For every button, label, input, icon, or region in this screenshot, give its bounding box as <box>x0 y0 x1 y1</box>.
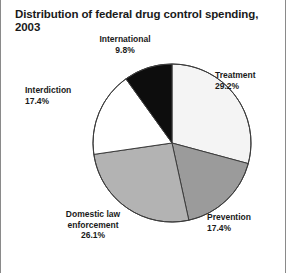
slice-label-interdiction-value: 17.4% <box>25 96 99 107</box>
slice-label-treatment-value: 29.2% <box>215 81 281 92</box>
slice-label-domestic-name-line2: enforcement <box>67 220 118 230</box>
slice-label-prevention-value: 17.4% <box>207 223 277 234</box>
slice-label-domestic-name-line1: Domestic law <box>66 209 120 219</box>
slice-label-interdiction-name: Interdiction <box>25 85 71 95</box>
slice-label-prevention-name: Prevention <box>207 212 251 222</box>
slice-label-international: International 9.8% <box>77 34 173 55</box>
slice-label-domestic-value: 26.1% <box>47 230 139 241</box>
slice-label-international-name: International <box>99 34 150 44</box>
chart-figure: Distribution of federal drug control spe… <box>0 0 286 273</box>
slice-label-international-value: 9.8% <box>77 45 173 56</box>
slice-label-domestic-law-enforcement: Domestic law enforcement 26.1% <box>47 209 139 241</box>
slice-label-treatment-name: Treatment <box>215 70 256 80</box>
slice-label-prevention: Prevention 17.4% <box>207 212 277 233</box>
slice-label-interdiction: Interdiction 17.4% <box>25 85 99 106</box>
slice-label-treatment: Treatment 29.2% <box>215 70 281 91</box>
